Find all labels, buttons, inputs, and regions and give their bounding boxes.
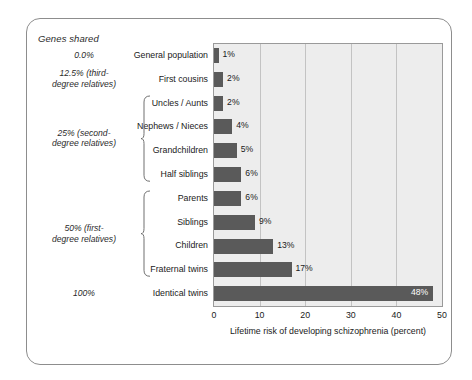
bar-value-label: 2%	[227, 97, 239, 107]
x-tick-label: 30	[346, 310, 356, 320]
bar-grandchildren	[214, 143, 237, 158]
x-tick-label: 50	[437, 310, 447, 320]
schizophrenia-risk-figure: Genes shared 0.0%12.5% (third-degree rel…	[0, 0, 472, 380]
bar-row: 48%	[214, 282, 442, 306]
bar-row: 1%	[214, 44, 442, 68]
category-label: Uncles / Aunts	[120, 98, 208, 108]
bar-siblings	[214, 215, 255, 230]
bar-identical-twins	[214, 286, 433, 301]
bar-first-cousins	[214, 72, 223, 87]
bar-row: 5%	[214, 139, 442, 163]
category-label: General population	[120, 50, 208, 60]
bar-row: 9%	[214, 211, 442, 235]
group-brace	[140, 95, 151, 182]
bar-value-label: 6%	[245, 192, 257, 202]
bar-children	[214, 239, 273, 254]
bar-general-population	[214, 48, 219, 63]
category-label-column: General populationFirst cousinsUncles / …	[120, 43, 208, 307]
bar-row: 6%	[214, 187, 442, 211]
x-tick-label: 20	[300, 310, 310, 320]
bar-row: 13%	[214, 235, 442, 259]
bar-value-label: 6%	[245, 168, 257, 178]
category-label: Children	[120, 240, 208, 250]
bar-row: 2%	[214, 92, 442, 116]
category-label: Identical twins	[120, 288, 208, 298]
bar-value-label: 2%	[227, 73, 239, 83]
x-tick-label: 0	[212, 310, 217, 320]
category-label: Parents	[120, 193, 208, 203]
bar-value-label: 17%	[296, 263, 313, 273]
category-label: Grandchildren	[120, 145, 208, 155]
category-label: Siblings	[120, 217, 208, 227]
category-label: Nephews / Nieces	[120, 121, 208, 131]
bar-fraternal-twins	[214, 262, 292, 277]
category-label: Half siblings	[120, 169, 208, 179]
bar-value-label: 4%	[236, 120, 248, 130]
plot-area: 1%2%2%4%5%6%6%9%13%17%48%	[213, 43, 443, 307]
bar-value-label: 1%	[223, 49, 235, 59]
bar-parents	[214, 191, 241, 206]
bar-row: 6%	[214, 163, 442, 187]
category-label: First cousins	[120, 74, 208, 84]
bar-row: 4%	[214, 115, 442, 139]
bar-half-siblings	[214, 167, 241, 182]
x-axis-ticks: 01020304050	[213, 310, 443, 322]
group-brace	[140, 190, 151, 277]
bar-row: 2%	[214, 68, 442, 92]
bar-nephews-nieces	[214, 119, 232, 134]
bar-row: 17%	[214, 258, 442, 282]
x-axis-title: Lifetime risk of developing schizophreni…	[213, 326, 443, 336]
bar-value-label: 5%	[241, 144, 253, 154]
bar-uncles-aunts	[214, 96, 223, 111]
x-tick-label: 40	[391, 310, 401, 320]
bar-value-label: 13%	[277, 240, 294, 250]
bar-value-label: 9%	[259, 216, 271, 226]
category-label: Fraternal twins	[120, 264, 208, 274]
x-tick-label: 10	[255, 310, 265, 320]
bar-value-label: 48%	[411, 287, 428, 297]
